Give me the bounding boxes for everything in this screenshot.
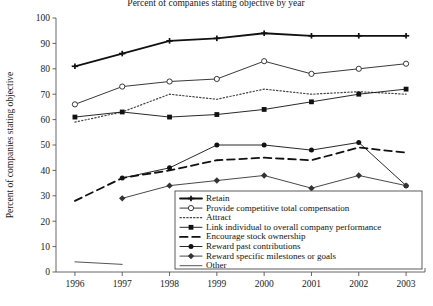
y-axis-label: Percent of companies stating objective bbox=[5, 72, 15, 219]
y-tick-label: 60 bbox=[41, 115, 51, 125]
data-point-circle bbox=[120, 84, 125, 89]
data-point-circle bbox=[72, 102, 77, 107]
data-point-circle bbox=[403, 61, 408, 66]
legend-label: Provide competitive total compensation bbox=[206, 203, 350, 213]
legend-item[interactable]: Link individual to overall company perfo… bbox=[180, 222, 381, 232]
legend-item[interactable]: Provide competitive total compensation bbox=[180, 203, 350, 213]
data-point-dot bbox=[356, 140, 361, 145]
y-tick-label: 80 bbox=[41, 64, 51, 74]
x-tick-label: 2003 bbox=[397, 279, 416, 289]
data-point-square bbox=[404, 87, 409, 92]
y-tick-label: 0 bbox=[45, 267, 50, 277]
chart-title: Percent of companies stating objective b… bbox=[127, 0, 305, 8]
data-point-dot bbox=[262, 143, 267, 148]
x-tick-label: 2000 bbox=[255, 279, 274, 289]
data-point-square bbox=[73, 115, 78, 120]
data-point-square bbox=[189, 225, 194, 230]
data-point-square bbox=[262, 107, 267, 112]
data-point-dot bbox=[214, 143, 219, 148]
data-point-dot bbox=[309, 148, 314, 153]
data-point-dot bbox=[120, 176, 125, 181]
x-tick-label: 1999 bbox=[207, 279, 226, 289]
data-point-square bbox=[120, 110, 125, 115]
legend-label: Reward past contributions bbox=[206, 241, 301, 251]
data-point-circle bbox=[167, 79, 172, 84]
chart-container: Percent of companies stating objective b… bbox=[0, 0, 433, 306]
data-point-dot bbox=[189, 244, 194, 249]
data-point-circle bbox=[262, 59, 267, 64]
y-tick-label: 30 bbox=[41, 191, 51, 201]
data-point-square bbox=[356, 92, 361, 97]
line-chart: Percent of companies stating objective b… bbox=[0, 0, 433, 306]
chart-legend: RetainProvide competitive total compensa… bbox=[175, 191, 422, 270]
x-tick-label: 1998 bbox=[160, 279, 179, 289]
data-point-circle bbox=[214, 76, 219, 81]
x-tick-label: 2001 bbox=[302, 279, 321, 289]
legend-label: Reward specific milestones or goals bbox=[206, 251, 336, 261]
y-tick-label: 40 bbox=[41, 166, 51, 176]
x-tick-label: 2002 bbox=[349, 279, 368, 289]
x-tick-label: 1996 bbox=[65, 279, 84, 289]
y-tick-label: 20 bbox=[41, 217, 51, 227]
data-point-square bbox=[309, 99, 314, 104]
y-tick-label: 90 bbox=[41, 39, 51, 49]
legend-label: Link individual to overall company perfo… bbox=[206, 222, 381, 232]
x-tick-label: 1997 bbox=[113, 279, 132, 289]
y-tick-label: 10 bbox=[41, 242, 51, 252]
data-point-dot bbox=[167, 165, 172, 170]
data-point-circle bbox=[188, 206, 193, 211]
data-point-circle bbox=[309, 71, 314, 76]
y-tick-label: 50 bbox=[41, 140, 51, 150]
y-tick-label: 70 bbox=[41, 90, 51, 100]
y-tick-label: 100 bbox=[36, 13, 51, 23]
data-point-square bbox=[167, 115, 172, 120]
legend-label: Other bbox=[206, 260, 227, 270]
legend-label: Encourage stock ownership bbox=[206, 231, 306, 241]
legend-label: Retain bbox=[206, 193, 230, 203]
legend-label: Attract bbox=[206, 212, 231, 222]
data-point-circle bbox=[356, 66, 361, 71]
data-point-square bbox=[214, 112, 219, 117]
